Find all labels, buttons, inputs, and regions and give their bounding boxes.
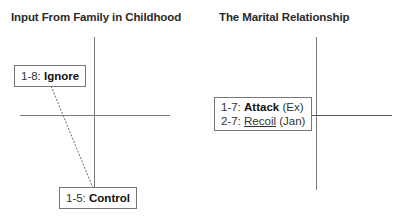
label-code: 1-8: [21, 70, 41, 82]
label-code: 1-7: [221, 101, 241, 113]
label-term: Ignore [44, 70, 79, 82]
axes-layer [0, 0, 400, 218]
label-box-ignore: 1-8: Ignore [14, 65, 86, 87]
label-box-control: 1-5: Control [59, 187, 137, 209]
label-term: Control [89, 192, 130, 204]
label-box-marital: 1-7: Attack (Ex) 2-7: Recoil (Jan) [214, 97, 312, 131]
label-suffix: (Ex) [282, 101, 303, 113]
label-suffix: (Jan) [279, 115, 305, 127]
label-term: Attack [244, 101, 279, 113]
label-line-attack: 1-7: Attack (Ex) [221, 100, 305, 114]
label-code: 1-5: [66, 192, 86, 204]
label-term: Recoil [244, 115, 276, 127]
label-code: 2-7: [221, 115, 241, 127]
dashed-connector [51, 86, 93, 188]
label-line-recoil: 2-7: Recoil (Jan) [221, 114, 305, 128]
